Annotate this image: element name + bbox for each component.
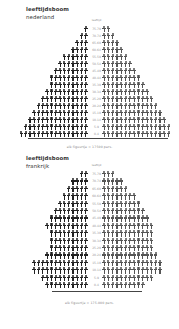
person-icon — [84, 193, 88, 200]
person-icon — [67, 245, 71, 252]
pyramid-row: 10-14 — [0, 117, 179, 124]
person-icon — [111, 33, 115, 40]
pyramid-row: 65-69 — [0, 40, 179, 47]
person-icon — [128, 61, 132, 68]
person-icon — [84, 275, 88, 282]
person-icon — [79, 68, 83, 75]
person-icon — [71, 223, 75, 230]
person-icon — [36, 110, 40, 117]
person-icon — [84, 282, 88, 289]
age-label: 0-4 — [91, 132, 102, 137]
person-icon — [141, 208, 145, 215]
person-icon — [45, 124, 49, 131]
pyramid-row: 45-49 — [0, 215, 179, 222]
left-bar — [49, 230, 88, 237]
person-icon — [32, 267, 36, 274]
france-title-line2: frankrijk — [26, 163, 49, 170]
age-label: 65-69 — [91, 187, 102, 192]
left-bar — [41, 275, 88, 282]
person-icon — [79, 33, 83, 40]
person-icon — [62, 54, 66, 61]
person-icon — [36, 260, 40, 267]
pyramid-row: 30-34 — [0, 238, 179, 245]
person-icon — [54, 75, 58, 82]
person-icon — [45, 131, 49, 138]
person-icon — [84, 171, 88, 178]
person-icon — [67, 103, 71, 110]
person-icon — [41, 117, 45, 124]
person-icon — [84, 178, 88, 185]
age-label: 45-49 — [91, 69, 102, 74]
age-label: 25-29 — [91, 246, 102, 251]
person-icon — [67, 201, 71, 208]
right-bar — [102, 47, 123, 54]
right-bar — [102, 89, 149, 96]
person-icon — [58, 223, 62, 230]
person-icon — [58, 82, 62, 89]
pyramid-row: 25-29 — [0, 96, 179, 103]
person-icon — [58, 96, 62, 103]
person-icon — [84, 201, 88, 208]
person-icon — [84, 103, 88, 110]
person-icon — [75, 110, 79, 117]
age-label: 55-59 — [91, 202, 102, 207]
person-icon — [62, 208, 66, 215]
left-bar — [36, 103, 88, 110]
person-icon — [79, 208, 83, 215]
person-icon — [67, 215, 71, 222]
right-bar — [102, 117, 166, 124]
person-icon — [62, 201, 66, 208]
left-bar — [32, 267, 88, 274]
person-icon — [79, 238, 83, 245]
person-icon — [71, 89, 75, 96]
right-bar — [102, 26, 111, 33]
left-bar — [49, 215, 88, 222]
person-icon — [79, 193, 83, 200]
age-label: 75-79 — [91, 27, 102, 32]
person-icon — [71, 186, 75, 193]
person-icon — [58, 208, 62, 215]
person-icon — [79, 61, 83, 68]
person-icon — [84, 26, 88, 33]
person-icon — [49, 223, 53, 230]
person-icon — [106, 26, 110, 33]
age-label: 35-39 — [91, 83, 102, 88]
right-bar — [102, 61, 132, 68]
person-icon — [67, 238, 71, 245]
person-icon — [119, 178, 123, 185]
right-bar — [102, 282, 145, 289]
person-icon — [54, 89, 58, 96]
person-icon — [19, 131, 23, 138]
person-icon — [162, 117, 166, 124]
age-label: 0-4 — [91, 283, 102, 288]
right-bar — [102, 68, 136, 75]
person-icon — [75, 186, 79, 193]
person-icon — [149, 238, 153, 245]
person-icon — [49, 275, 53, 282]
person-icon — [75, 131, 79, 138]
person-icon — [84, 186, 88, 193]
pyramid-row: 75-79 — [0, 26, 179, 33]
person-icon — [123, 186, 127, 193]
person-icon — [54, 82, 58, 89]
person-icon — [71, 117, 75, 124]
pyramid-row: 60-64 — [0, 193, 179, 200]
person-icon — [41, 103, 45, 110]
person-icon — [45, 275, 49, 282]
person-icon — [67, 54, 71, 61]
person-icon — [45, 96, 49, 103]
age-label: 10-14 — [91, 268, 102, 273]
age-label: 35-39 — [91, 231, 102, 236]
person-icon — [67, 275, 71, 282]
left-bar — [32, 110, 88, 117]
person-icon — [75, 61, 79, 68]
person-icon — [71, 245, 75, 252]
person-icon — [84, 33, 88, 40]
person-icon — [79, 267, 83, 274]
age-label: 20-24 — [91, 253, 102, 258]
netherlands-title-line2: nederland — [26, 14, 54, 21]
person-icon — [75, 103, 79, 110]
person-icon — [84, 267, 88, 274]
person-icon — [32, 117, 36, 124]
person-icon — [62, 252, 66, 259]
